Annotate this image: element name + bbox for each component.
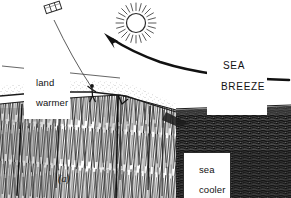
sea-cooler-label: sea cooler: [183, 152, 231, 198]
kite-icon: [44, 1, 62, 14]
sea-breeze-line2: BREEZE: [209, 82, 265, 93]
sea-label-line2: cooler: [199, 184, 225, 195]
sea-breeze-label: SEA BREEZE: [207, 49, 267, 115]
sea-breeze-figure: land warmer SEA BREEZE sea cooler (a): [0, 0, 291, 198]
land-label-line1: land: [36, 77, 54, 88]
sea-label-line1: sea: [199, 164, 215, 175]
arrow-head: [104, 33, 118, 49]
person-figure: [88, 84, 97, 102]
sun-icon: [116, 3, 156, 43]
land-label-line2: warmer: [36, 97, 68, 108]
panel-label: (a): [56, 174, 72, 185]
land-warmer-label: land warmer: [24, 67, 70, 119]
sea-breeze-line1: SEA: [223, 60, 245, 71]
